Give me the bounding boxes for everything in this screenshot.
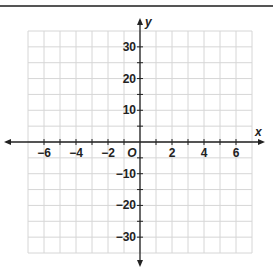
x-axis-right-arrow-icon — [258, 139, 265, 145]
x-tick-label: 4 — [201, 146, 208, 160]
x-tick-label: 6 — [233, 146, 240, 160]
x-tick-label: −6 — [37, 146, 51, 160]
tick-labels: −6−4−2246302010−10−20−30Oxy — [37, 15, 263, 244]
y-axis-label: y — [144, 15, 153, 29]
y-tick-label: 30 — [123, 40, 137, 54]
y-tick-label: 20 — [123, 72, 137, 86]
y-tick-label: 10 — [123, 103, 137, 117]
x-tick-label: −4 — [69, 146, 83, 160]
y-tick-label: −10 — [116, 167, 137, 181]
y-axis-up-arrow-icon — [137, 18, 143, 25]
origin-label: O — [127, 146, 137, 160]
coordinate-plane: −6−4−2246302010−10−20−30Oxy — [0, 0, 273, 275]
x-axis-left-arrow-icon — [4, 139, 11, 145]
x-tick-label: 2 — [169, 146, 176, 160]
y-axis-down-arrow-icon — [137, 260, 143, 267]
x-tick-label: −2 — [101, 146, 115, 160]
y-tick-label: −20 — [116, 198, 137, 212]
y-tick-label: −30 — [116, 230, 137, 244]
x-axis-label: x — [254, 125, 263, 139]
